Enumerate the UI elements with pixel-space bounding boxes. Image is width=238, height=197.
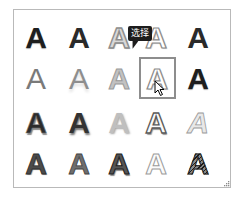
wordart-style-12[interactable]: A: [61, 104, 97, 142]
wordart-style-8[interactable]: A: [101, 60, 137, 98]
wordart-style-label: A: [68, 149, 90, 179]
wordart-gallery: A A A A A A A A A A A A A A A A A A A A: [13, 9, 231, 188]
wordart-style-17[interactable]: A: [61, 145, 97, 183]
wordart-style-label: A: [25, 149, 47, 179]
wordart-style-label: A: [108, 149, 130, 179]
wordart-style-20[interactable]: A: [180, 145, 216, 183]
wordart-style-label: A: [108, 108, 130, 138]
wordart-style-10[interactable]: A: [180, 60, 216, 98]
wordart-style-label: A: [187, 64, 209, 94]
wordart-style-6[interactable]: A: [18, 60, 54, 98]
resize-grip-icon[interactable]: [223, 180, 230, 187]
wordart-style-15[interactable]: A: [180, 104, 216, 142]
wordart-style-label: A: [68, 23, 90, 53]
wordart-style-label: A: [25, 108, 47, 138]
wordart-style-label: A: [145, 149, 167, 179]
wordart-style-label: A: [69, 64, 89, 94]
wordart-style-label: A: [25, 23, 47, 53]
wordart-style-label: A: [187, 149, 209, 179]
wordart-style-19[interactable]: A: [138, 145, 174, 183]
wordart-style-16[interactable]: A: [18, 145, 54, 183]
wordart-style-label: A: [145, 108, 167, 138]
wordart-style-2[interactable]: A: [61, 19, 97, 57]
wordart-style-7[interactable]: A: [61, 60, 97, 98]
wordart-style-5[interactable]: A: [180, 19, 216, 57]
wordart-style-label: A: [26, 64, 46, 94]
wordart-style-label: A: [187, 108, 209, 138]
mouse-cursor-icon: [154, 80, 166, 97]
wordart-style-14[interactable]: A: [138, 104, 174, 142]
wordart-style-label: A: [108, 23, 130, 53]
wordart-style-1[interactable]: A: [18, 19, 54, 57]
tooltip: 选择: [128, 26, 152, 41]
wordart-style-18[interactable]: A: [101, 145, 137, 183]
wordart-style-label: A: [108, 64, 130, 94]
wordart-style-label: A: [68, 108, 90, 138]
wordart-style-label: A: [187, 23, 209, 53]
wordart-style-13[interactable]: A: [101, 104, 137, 142]
wordart-style-11[interactable]: A: [18, 104, 54, 142]
